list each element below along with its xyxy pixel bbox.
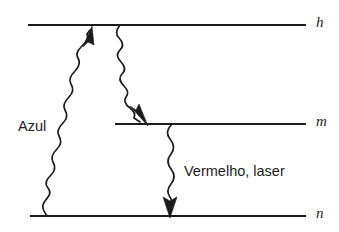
energy-level-diagram: h m n Azul Vermelho, laser: [0, 0, 339, 232]
level-label-n: n: [316, 205, 324, 221]
squiggle-azul: [43, 30, 90, 216]
squiggle-h-to-m: [116, 25, 140, 122]
transition-label-vermelho-laser: Vermelho, laser: [184, 163, 285, 179]
transition-label-azul: Azul: [18, 118, 46, 134]
arrowhead-h-to-m-down: [130, 104, 148, 126]
arrowhead-vermelho-down: [163, 197, 177, 218]
level-label-h: h: [316, 14, 324, 30]
arrowhead-azul-up: [83, 26, 94, 47]
level-label-m: m: [316, 113, 327, 129]
diagram-canvas: h m n Azul Vermelho, laser: [0, 0, 339, 232]
squiggle-vermelho-laser: [168, 124, 174, 206]
